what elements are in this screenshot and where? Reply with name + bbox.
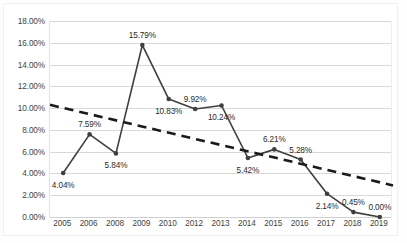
x-axis-tick-label: 2005 — [53, 219, 71, 228]
x-axis-labels: 2005200620082009201020122013201420152016… — [49, 219, 392, 235]
y-axis-tick-label: 4.00% — [22, 169, 45, 178]
data-label: 10.83% — [155, 107, 182, 116]
x-axis-tick-label: 2015 — [264, 219, 282, 228]
data-label: 6.21% — [263, 135, 286, 144]
data-point-marker[interactable] — [87, 132, 92, 137]
chart-frame: 0.00%2.00%4.00%6.00%8.00%10.00%12.00%14.… — [3, 3, 398, 236]
x-axis-tick-label: 2016 — [291, 219, 309, 228]
y-axis-tick-label: 12.00% — [18, 82, 45, 91]
data-label: 0.45% — [342, 198, 365, 207]
x-axis-tick-label: 2009 — [132, 219, 150, 228]
data-label: 4.04% — [52, 181, 75, 190]
x-axis-tick-label: 2019 — [370, 219, 388, 228]
data-point-marker[interactable] — [351, 210, 356, 215]
y-axis-tick-label: 14.00% — [18, 60, 45, 69]
chart-container: 0.00%2.00%4.00%6.00%8.00%10.00%12.00%14.… — [0, 0, 407, 243]
series-line — [63, 45, 380, 217]
x-axis-tick-label: 2010 — [159, 219, 177, 228]
y-axis-tick-label: 6.00% — [22, 147, 45, 156]
y-axis-tick-label: 10.00% — [18, 104, 45, 113]
y-axis-tick-label: 2.00% — [22, 191, 45, 200]
x-axis-tick-label: 2013 — [212, 219, 230, 228]
data-point-marker[interactable] — [193, 107, 198, 112]
data-point-marker[interactable] — [246, 156, 251, 161]
plot-area: 0.00%2.00%4.00%6.00%8.00%10.00%12.00%14.… — [49, 21, 392, 217]
x-axis-tick-label: 2006 — [80, 219, 98, 228]
data-point-marker[interactable] — [272, 147, 277, 152]
data-label: 15.79% — [129, 31, 156, 40]
x-axis-tick-label: 2014 — [238, 219, 256, 228]
data-point-marker[interactable] — [325, 191, 330, 196]
data-label: 9.92% — [184, 94, 207, 103]
x-axis-tick-label: 2012 — [185, 219, 203, 228]
data-point-marker[interactable] — [166, 97, 171, 102]
y-axis-tick-label: 0.00% — [22, 213, 45, 222]
data-label: 0.00% — [368, 203, 391, 212]
x-axis-tick-label: 2018 — [344, 219, 362, 228]
data-point-marker[interactable] — [298, 157, 303, 162]
data-label: 7.59% — [78, 120, 101, 129]
data-label: 2.14% — [316, 201, 339, 210]
data-point-marker[interactable] — [61, 171, 66, 176]
x-axis-tick-label: 2017 — [317, 219, 335, 228]
y-axis-tick-label: 8.00% — [22, 125, 45, 134]
x-axis-tick-label: 2008 — [106, 219, 124, 228]
y-axis-tick-label: 16.00% — [18, 38, 45, 47]
data-point-marker[interactable] — [140, 43, 145, 48]
data-point-marker[interactable] — [219, 103, 224, 108]
gridline — [50, 217, 391, 218]
data-label: 5.84% — [105, 161, 128, 170]
y-axis-tick-label: 18.00% — [18, 17, 45, 26]
data-label: 10.24% — [208, 113, 235, 122]
data-label: 5.42% — [237, 165, 260, 174]
data-point-marker[interactable] — [114, 151, 119, 156]
data-label: 5.28% — [289, 145, 312, 154]
